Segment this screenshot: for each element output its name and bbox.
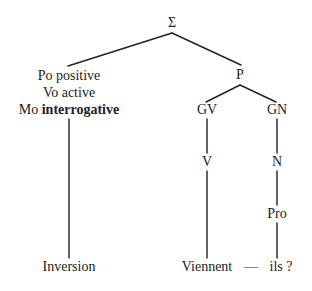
feature-voice-value: active bbox=[62, 85, 95, 100]
feature-voice: Vo active bbox=[19, 84, 119, 101]
feature-polarity: Po positive bbox=[19, 67, 119, 84]
node-gn: GN bbox=[267, 102, 287, 118]
leaf-pronoun: ils ? bbox=[270, 259, 293, 275]
node-n: N bbox=[272, 154, 282, 170]
leaf-verb: Viennent bbox=[182, 259, 232, 275]
tree-edges bbox=[0, 0, 312, 291]
leaf-inversion: Inversion bbox=[43, 259, 96, 275]
sentence-features: Po positive Vo active Mo interrogative bbox=[19, 67, 119, 118]
root-node-sigma: Σ bbox=[168, 15, 176, 31]
node-p: P bbox=[236, 67, 244, 83]
node-pro: Pro bbox=[267, 206, 286, 222]
feature-mood-prefix: Mo bbox=[19, 102, 38, 117]
feature-polarity-prefix: Po bbox=[38, 68, 53, 83]
feature-mood-value: interrogative bbox=[42, 102, 120, 117]
node-gv: GV bbox=[197, 102, 217, 118]
edge-p-gn bbox=[240, 85, 276, 102]
leaf-dash: — bbox=[244, 259, 258, 275]
edge-root-features bbox=[68, 33, 172, 66]
edge-root-p bbox=[172, 33, 241, 65]
feature-voice-prefix: Vo bbox=[43, 85, 58, 100]
feature-mood: Mo interrogative bbox=[19, 101, 119, 118]
feature-polarity-value: positive bbox=[56, 68, 100, 83]
edge-p-gv bbox=[206, 85, 240, 102]
node-v: V bbox=[202, 154, 212, 170]
